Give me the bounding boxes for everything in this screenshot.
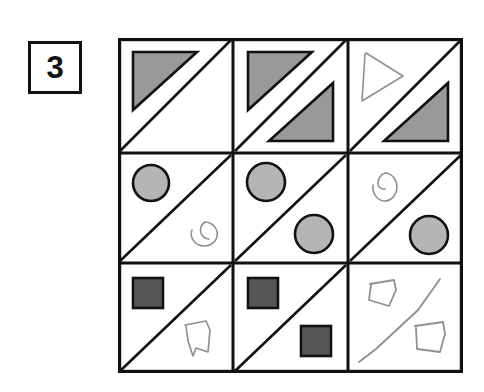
puzzle-canvas: 3: [0, 0, 484, 392]
cell-r1c3[interactable]: [348, 38, 463, 153]
cell-r3c3-answer[interactable]: [348, 263, 463, 373]
cell-r2c3[interactable]: [348, 153, 463, 263]
cell-r3c2[interactable]: [233, 263, 348, 373]
filled-circle-upper-left: [133, 165, 169, 201]
filled-circle-lower-right: [295, 215, 333, 253]
item-number-box: 3: [28, 41, 82, 94]
filled-square-upper-left: [133, 278, 163, 308]
filled-circle-upper-left: [247, 163, 285, 201]
cell-r2c2[interactable]: [233, 153, 348, 263]
cell-r3c1[interactable]: [118, 263, 233, 373]
filled-square-lower-right: [301, 326, 331, 356]
filled-circle-lower-right: [410, 216, 448, 254]
cell-r1c1[interactable]: [118, 38, 233, 153]
cell-r1c2[interactable]: [233, 38, 348, 153]
cell-r2c1[interactable]: [118, 153, 233, 263]
matrix-svg: [118, 38, 463, 373]
item-number-label: 3: [46, 52, 63, 83]
matrix-grid[interactable]: [118, 38, 463, 373]
filled-square-upper-left: [248, 278, 278, 308]
